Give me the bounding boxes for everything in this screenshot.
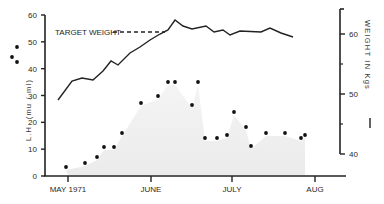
lh-point bbox=[244, 125, 248, 129]
lh-point bbox=[156, 94, 160, 98]
lh-point bbox=[83, 161, 87, 165]
x-tick-label: JULY bbox=[223, 185, 243, 194]
right-tick-label: 60 bbox=[349, 30, 358, 39]
lh-point bbox=[299, 136, 303, 140]
right-tick-label: 40 bbox=[349, 150, 358, 159]
lh-weight-chart: 0102030405060 MAY 1971JUNEJULYAUG 405060… bbox=[0, 0, 384, 204]
left-tick-label: 40 bbox=[28, 65, 37, 74]
lh-point bbox=[173, 80, 177, 84]
x-tick-label: MAY 1971 bbox=[50, 185, 87, 194]
left-tick-label: 60 bbox=[28, 11, 37, 20]
lh-point bbox=[264, 131, 268, 135]
right-tick-label: 50 bbox=[349, 90, 358, 99]
lh-legend-dot bbox=[15, 45, 19, 49]
target-weight-annotation: TARGET WEIGHT bbox=[55, 28, 165, 37]
lh-point bbox=[64, 165, 68, 169]
left-tick-label: 0 bbox=[33, 172, 38, 181]
x-axis: MAY 1971JUNEJULYAUG bbox=[44, 176, 346, 194]
lh-legend-dot bbox=[15, 60, 19, 64]
lh-shaded-area bbox=[66, 85, 305, 175]
right-axis-title: WEIGHT IN Kgs bbox=[363, 20, 372, 90]
right-y-axis: 405060 bbox=[340, 9, 358, 159]
lh-point bbox=[112, 145, 116, 149]
lh-point bbox=[249, 144, 253, 148]
lh-point bbox=[215, 136, 219, 140]
x-tick-label: JUNE bbox=[141, 185, 162, 194]
lh-point bbox=[283, 131, 287, 135]
lh-point bbox=[102, 145, 106, 149]
x-tick-label: AUG bbox=[306, 185, 323, 194]
lh-point bbox=[120, 131, 124, 135]
lh-point bbox=[166, 80, 170, 84]
lh-point bbox=[196, 80, 200, 84]
lh-point bbox=[203, 136, 207, 140]
lh-point bbox=[95, 155, 99, 159]
lh-point bbox=[232, 110, 236, 114]
svg-text:TARGET WEIGHT: TARGET WEIGHT bbox=[55, 28, 121, 37]
lh-point bbox=[303, 133, 307, 137]
lh-legend-dot bbox=[10, 55, 14, 59]
lh-point bbox=[190, 103, 194, 107]
lh-point bbox=[225, 133, 229, 137]
lh-point bbox=[139, 101, 143, 105]
left-tick-label: 10 bbox=[28, 145, 37, 154]
left-axis-title: L.H. (mu / ml) bbox=[24, 79, 33, 141]
left-tick-label: 50 bbox=[28, 38, 37, 47]
